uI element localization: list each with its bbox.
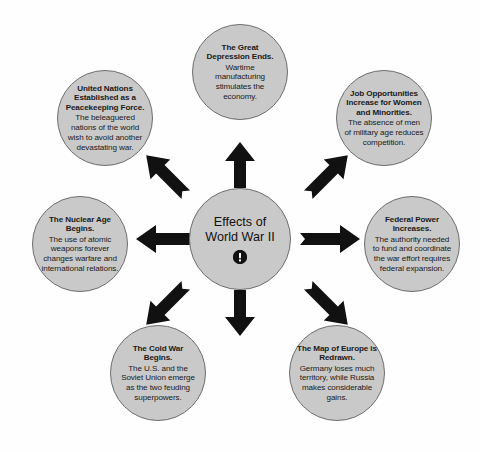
node-description: The U.S. and the Soviet Union emerge as … — [118, 364, 198, 403]
node-title: The Nuclear Age Begins. — [40, 215, 120, 234]
node-description: The beleaguered nations of the world wis… — [65, 113, 145, 152]
node-description: Wartime manufacturing stimulates the eco… — [200, 63, 280, 102]
node-united-nations-established: United Nations Established as a Peacekee… — [57, 70, 153, 166]
arrow-left — [136, 224, 196, 254]
node-description: Germany loses much territory, while Russ… — [297, 364, 377, 403]
arrow-up-right — [298, 145, 359, 206]
exclamation-circle-icon — [233, 250, 247, 264]
node-great-depression: The Great Depression Ends. Wartime manuf… — [192, 24, 288, 120]
arrow-down — [224, 290, 256, 336]
node-nuclear-age-begins: The Nuclear Age Begins. The use of atomi… — [32, 196, 128, 292]
node-title: Federal Power Increases. — [372, 215, 452, 234]
node-map-of-europe-redrawn: The Map of Europe is Redrawn. Germany lo… — [289, 325, 385, 421]
node-federal-power: Federal Power Increases. The authority n… — [364, 196, 460, 292]
node-title: The Cold War Begins. — [118, 344, 198, 363]
arrow-up — [224, 142, 256, 188]
node-description: The use of atomic weapons forever change… — [40, 235, 120, 274]
node-description: The authority needed to fund and coordin… — [372, 235, 452, 274]
node-job-opportunities: Job Opportunities Increase for Women and… — [336, 70, 432, 166]
arrow-right — [300, 224, 360, 254]
arrow-up-left — [136, 145, 197, 206]
node-cold-war-begins: The Cold War Begins. The U.S. and the So… — [110, 325, 206, 421]
node-description: The absence of men of military age reduc… — [344, 118, 424, 147]
node-title: The Great Depression Ends. — [200, 43, 280, 62]
concept-map-diagram: Effects of World War II The Great Depres… — [0, 0, 480, 452]
center-node-effects-of-world-war-ii: Effects of World War II — [189, 188, 291, 290]
node-title: The Map of Europe is Redrawn. — [297, 344, 377, 363]
center-node-title: Effects of World War II — [197, 215, 283, 246]
node-title: Job Opportunities Increase for Women and… — [344, 89, 424, 118]
node-title: United Nations Established as a Peacekee… — [65, 84, 145, 113]
